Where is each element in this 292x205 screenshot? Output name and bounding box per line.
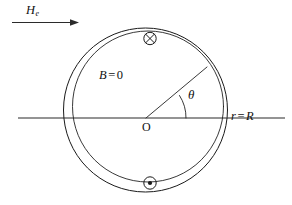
boundary-label: r=R: [231, 110, 254, 123]
figure-container: He B=0 O θ r=R: [0, 0, 292, 205]
boundary-value: R: [246, 109, 254, 123]
circle-cross-icon: [144, 32, 156, 44]
interior-field-value: 0: [117, 68, 123, 82]
inner-circle: [73, 31, 224, 182]
interior-field-symbol: B: [99, 68, 107, 82]
applied-field-symbol: H: [26, 3, 35, 17]
applied-field-subscript: e: [35, 9, 39, 18]
origin-label: O: [142, 121, 151, 133]
angle-label: θ: [188, 88, 194, 101]
applied-field-arrow: [12, 19, 79, 26]
boundary-equals: =: [236, 109, 246, 123]
angle-arc: [180, 96, 187, 119]
radius-line: [146, 67, 207, 118]
applied-field-label: He: [26, 4, 39, 18]
arrow-head: [70, 19, 79, 26]
outer-circle: [64, 28, 228, 192]
interior-field-label: B=0: [99, 69, 123, 82]
diagram-canvas: [0, 0, 292, 205]
circle-dot-icon: [144, 177, 156, 189]
interior-field-equals: =: [107, 68, 117, 82]
